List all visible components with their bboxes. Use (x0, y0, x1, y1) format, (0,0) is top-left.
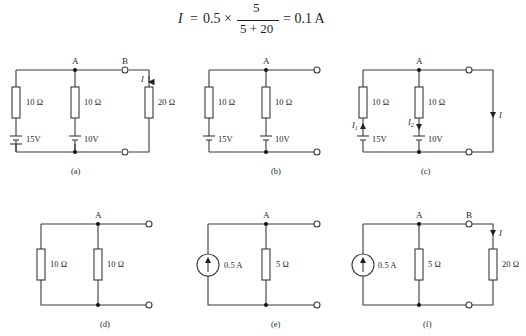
node-dot (73, 68, 77, 72)
circuit-c: 10 Ω 10 Ω 15V 10V I1 I2 I A (c) (351, 56, 503, 176)
node-dot (264, 68, 268, 72)
battery-icon (413, 136, 425, 140)
resistor-left (37, 249, 45, 280)
caption-f: (f) (423, 319, 432, 329)
node-dot (417, 222, 421, 226)
terminal (314, 67, 320, 73)
resistor-value: 5 Ω (276, 259, 289, 269)
resistor-middle (262, 87, 270, 118)
resistor-load (145, 87, 153, 118)
resistor-middle-value: 10 Ω (84, 97, 101, 107)
battery-left-voltage: 15V (372, 134, 388, 144)
current-source-value: 0.5 A (224, 260, 243, 270)
node-dot (264, 303, 268, 307)
node-label-b: B (122, 56, 128, 66)
node-label-a: A (263, 210, 270, 220)
resistor-middle (71, 87, 79, 118)
circuit-b: 10 Ω 10 Ω 15V 10V A (b) (203, 56, 320, 176)
resistor-middle (94, 249, 102, 280)
current-source-icon (352, 254, 374, 276)
current-arrow-down-icon (416, 124, 422, 130)
resistor-middle-value: 10 Ω (428, 97, 445, 107)
circuit-f: 0.5 A 5 Ω 20 Ω I A B (f) (352, 210, 519, 329)
current-i1-label: I1 (351, 120, 358, 131)
battery-middle-voltage: 10V (84, 134, 100, 144)
circuit-d: 10 Ω 10 Ω A (d) (37, 210, 152, 329)
resistor-middle-value: 10 Ω (107, 259, 124, 269)
node-dot (264, 150, 268, 154)
terminal (466, 149, 472, 155)
node-dot (264, 222, 268, 226)
resistor-shunt (415, 249, 423, 280)
terminal-b (466, 221, 472, 227)
battery-middle-voltage: 10V (275, 134, 291, 144)
node-label-a: A (95, 210, 102, 220)
current-source-icon (197, 254, 219, 276)
node-dot (96, 303, 100, 307)
terminal (146, 302, 152, 308)
node-dot (417, 150, 421, 154)
resistor-left (12, 87, 20, 118)
battery-icon (203, 136, 215, 140)
circuit-a: 10 Ω 10 Ω 20 Ω 15V 10V A B I (a) (10, 56, 175, 176)
battery-icon (357, 136, 369, 140)
resistor-middle-value: 10 Ω (275, 97, 292, 107)
current-arrow-down-icon (490, 230, 496, 236)
terminal-b (122, 67, 128, 73)
terminal (466, 302, 472, 308)
current-label: I (498, 110, 503, 120)
terminal (314, 302, 320, 308)
current-label: I (140, 74, 145, 84)
battery-left-voltage: 15V (26, 134, 42, 144)
battery-middle-voltage: 10V (428, 134, 444, 144)
caption-e: (e) (271, 319, 281, 329)
terminal (466, 67, 472, 73)
terminal (314, 149, 320, 155)
node-label-a: A (416, 56, 423, 66)
caption-c: (c) (421, 166, 431, 176)
node-dot (73, 150, 77, 154)
resistor (262, 249, 270, 280)
node-dot (417, 68, 421, 72)
node-label-a: A (72, 56, 79, 66)
caption-a: (a) (71, 166, 81, 176)
caption-d: (d) (100, 319, 110, 329)
resistor-left-value: 10 Ω (372, 97, 389, 107)
node-label-b: B (466, 210, 472, 220)
circuit-e: 0.5 A 5 Ω A (e) (197, 210, 320, 329)
node-label-a: A (416, 210, 423, 220)
resistor-load-value: 20 Ω (158, 97, 175, 107)
node-dot (417, 303, 421, 307)
terminal (122, 149, 128, 155)
current-label: I (498, 228, 503, 238)
terminal (146, 221, 152, 227)
resistor-middle (415, 87, 423, 118)
current-arrow-up-icon (360, 123, 366, 129)
resistor-load-value: 20 Ω (502, 259, 519, 269)
battery-icon (69, 136, 81, 140)
node-dot (96, 222, 100, 226)
resistor-left (205, 87, 213, 118)
resistor-left-value: 10 Ω (50, 259, 67, 269)
battery-left-voltage: 15V (218, 134, 234, 144)
current-source-value: 0.5 A (378, 260, 397, 270)
resistor-load (489, 249, 497, 280)
terminal (314, 221, 320, 227)
resistor-left (359, 87, 367, 118)
caption-b: (b) (271, 166, 281, 176)
resistor-left-value: 10 Ω (218, 97, 235, 107)
resistor-shunt-value: 5 Ω (428, 259, 441, 269)
current-i2-label: I2 (407, 117, 414, 128)
resistor-left-value: 10 Ω (26, 97, 43, 107)
node-label-a: A (263, 56, 270, 66)
battery-icon (260, 136, 272, 140)
current-arrow-down-icon (490, 112, 496, 118)
